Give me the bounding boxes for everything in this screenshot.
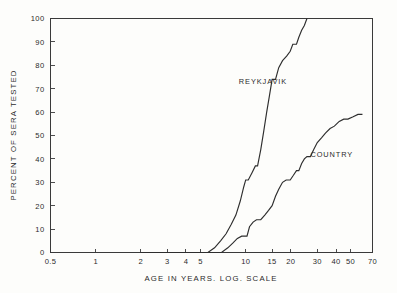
y-tick-label: 40 [35, 155, 44, 164]
series-annotation-country: COUNTRY [310, 150, 353, 159]
x-tick-label: 5 [198, 257, 203, 266]
x-tick-label: 0.5 [45, 257, 57, 266]
x-tick-label: 4 [184, 257, 189, 266]
series-annotation-reykjavik: REYKJAVIK [239, 77, 287, 86]
figure-background [0, 0, 397, 293]
x-tick-label: 30 [313, 257, 322, 266]
y-tick-label: 0 [40, 248, 45, 257]
y-tick-label: 70 [35, 85, 44, 94]
x-tick-label: 40 [331, 257, 340, 266]
x-tick-label: 50 [346, 257, 355, 266]
x-tick-label: 20 [286, 257, 295, 266]
chart-figure: 0.51234510152030405070 01020304050607080… [0, 0, 397, 293]
y-tick-label: 50 [35, 131, 44, 140]
y-tick-label: 20 [35, 202, 44, 211]
y-axis-title: PERCENT OF SERA TESTED [9, 69, 18, 200]
x-tick-label: 2 [139, 257, 144, 266]
y-tick-label: 100 [31, 14, 45, 23]
chart-canvas: 0.51234510152030405070 01020304050607080… [0, 0, 397, 293]
y-tick-label: 10 [35, 225, 44, 234]
x-tick-label: 15 [268, 257, 277, 266]
x-tick-label: 1 [93, 257, 98, 266]
x-tick-label: 3 [165, 257, 170, 266]
y-tick-label: 90 [35, 38, 44, 47]
x-tick-label: 10 [241, 257, 250, 266]
x-axis-title: AGE IN YEARS. LOG. SCALE [144, 274, 277, 283]
y-tick-label: 30 [35, 178, 44, 187]
x-tick-label: 70 [368, 257, 377, 266]
y-tick-label: 60 [35, 108, 44, 117]
y-tick-label: 80 [35, 61, 44, 70]
